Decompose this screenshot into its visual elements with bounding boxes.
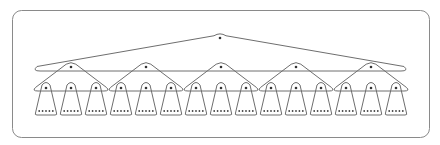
leaf-item-dot-icon [38,110,40,112]
leaf-item-dot-icon [292,110,294,112]
leaf-item-dot-icon [142,110,144,112]
leaf-item-dot-icon [102,110,104,112]
leaf-item-dot-icon [252,110,254,112]
leaf-item-dot-icon [145,110,147,112]
leaf-item-dot-icon [117,110,119,112]
leaf-dot-icon [145,87,148,90]
leaf-dot-icon [370,87,373,90]
leaf-item-dot-icon [213,110,215,112]
leaf-item-dot-icon [163,110,165,112]
leaf-item-dot-icon [402,110,404,112]
leaf-item-dot-icon [202,110,204,112]
leaf-item-dot-icon [238,110,240,112]
leaf-item-dot-icon [267,110,269,112]
leaf-item-dot-icon [99,110,101,112]
mid-dot-icon [370,66,373,69]
leaf-item-dot-icon [188,110,190,112]
leaf-item-dot-icon [67,110,69,112]
leaf-dot-icon [270,87,273,90]
leaf-item-dot-icon [120,110,122,112]
leaf-item-dot-icon [242,110,244,112]
leaf-item-dot-icon [327,110,329,112]
leaf-item-dot-icon [224,110,226,112]
leaf-item-dot-icon [77,110,79,112]
leaf-item-dot-icon [88,110,90,112]
leaf-item-dot-icon [363,110,365,112]
leaf-item-dot-icon [338,110,340,112]
leaf-item-dot-icon [249,110,251,112]
leaf-item-dot-icon [345,110,347,112]
leaf-item-dot-icon [277,110,279,112]
leaf-item-dot-icon [149,110,151,112]
leaf-dot-icon [95,87,98,90]
leaf-item-dot-icon [352,110,354,112]
leaf-item-dot-icon [349,110,351,112]
leaf-item-dot-icon [174,110,176,112]
leaf-dot-icon [245,87,248,90]
leaf-item-dot-icon [170,110,172,112]
leaf-item-dot-icon [127,110,129,112]
leaf-item-dot-icon [167,110,169,112]
leaf-item-dot-icon [95,110,97,112]
leaf-dot-icon [70,87,73,90]
leaf-item-dot-icon [45,110,47,112]
leaf-dot-icon [345,87,348,90]
leaf-item-dot-icon [92,110,94,112]
leaf-dot-icon [295,87,298,90]
leaf-dot-icon [45,87,48,90]
root-dot-icon [219,37,222,40]
leaf-dot-icon [170,87,173,90]
leaf-item-dot-icon [317,110,319,112]
leaf-item-dot-icon [49,110,51,112]
leaf-item-dot-icon [124,110,126,112]
mid-dot-icon [220,66,223,69]
tree-diagram [0,0,440,145]
leaf-item-dot-icon [388,110,390,112]
leaf-item-dot-icon [220,110,222,112]
leaf-item-dot-icon [113,110,115,112]
leaf-item-dot-icon [399,110,401,112]
mid-dot-icon [70,66,73,69]
leaf-item-dot-icon [288,110,290,112]
leaf-item-dot-icon [370,110,372,112]
leaf-item-dot-icon [395,110,397,112]
leaf-item-dot-icon [299,110,301,112]
leaf-item-dot-icon [138,110,140,112]
leaf-item-dot-icon [74,110,76,112]
mid-dot-icon [145,66,148,69]
leaf-item-dot-icon [320,110,322,112]
diagram-canvas [0,0,440,145]
leaf-item-dot-icon [374,110,376,112]
leaf-dot-icon [220,87,223,90]
leaf-item-dot-icon [302,110,304,112]
leaf-item-dot-icon [195,110,197,112]
leaf-item-dot-icon [324,110,326,112]
leaf-item-dot-icon [274,110,276,112]
leaf-item-dot-icon [270,110,272,112]
leaf-item-dot-icon [42,110,44,112]
leaf-item-dot-icon [263,110,265,112]
leaf-item-dot-icon [177,110,179,112]
leaf-item-dot-icon [52,110,54,112]
leaf-item-dot-icon [70,110,72,112]
leaf-item-dot-icon [342,110,344,112]
leaf-item-dot-icon [295,110,297,112]
leaf-item-dot-icon [245,110,247,112]
leaf-item-dot-icon [367,110,369,112]
mid-dot-icon [295,66,298,69]
leaf-item-dot-icon [392,110,394,112]
leaf-item-dot-icon [227,110,229,112]
leaf-item-dot-icon [63,110,65,112]
leaf-item-dot-icon [152,110,154,112]
leaf-item-dot-icon [217,110,219,112]
leaf-dot-icon [195,87,198,90]
diagram-frame [13,11,430,138]
leaf-item-dot-icon [192,110,194,112]
leaf-dot-icon [120,87,123,90]
leaf-item-dot-icon [199,110,201,112]
leaf-item-dot-icon [377,110,379,112]
leaf-item-dot-icon [313,110,315,112]
leaf-dot-icon [320,87,323,90]
leaf-dot-icon [395,87,398,90]
